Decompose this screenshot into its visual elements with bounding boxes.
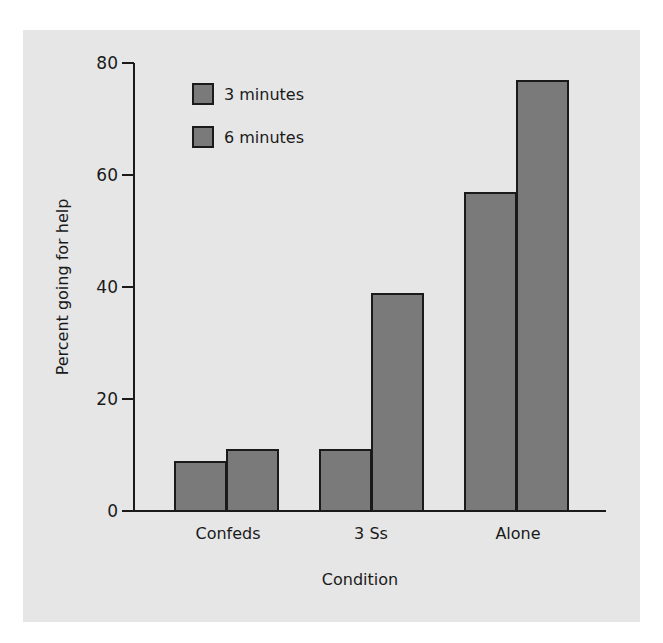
bar-alone-6-minutes <box>516 80 569 512</box>
y-tick-label: 60 <box>78 165 118 185</box>
bar-confeds-6-minutes <box>226 449 279 512</box>
x-axis-label: Condition <box>290 570 430 589</box>
y-axis-label: Percent going for help <box>53 199 72 376</box>
legend-swatch <box>192 126 214 148</box>
category-label-confeds: Confeds <box>168 524 288 543</box>
category-label-3-ss: 3 Ss <box>311 524 431 543</box>
y-tick-20 <box>122 398 134 400</box>
bar-3-ss-6-minutes <box>371 293 424 512</box>
legend-label: 3 minutes <box>224 85 304 104</box>
legend-label: 6 minutes <box>224 128 304 147</box>
y-tick-label: 20 <box>78 389 118 409</box>
legend-item-3-minutes: 3 minutes <box>192 82 304 106</box>
category-label-alone: Alone <box>458 524 578 543</box>
y-tick-40 <box>122 286 134 288</box>
bar-alone-3-minutes <box>464 192 517 512</box>
y-tick-label: 0 <box>78 501 118 521</box>
y-tick-label: 40 <box>78 277 118 297</box>
legend-swatch <box>192 83 214 105</box>
bar-confeds-3-minutes <box>174 461 227 512</box>
legend-item-6-minutes: 6 minutes <box>192 125 304 149</box>
y-tick-0 <box>122 510 134 512</box>
bar-3-ss-3-minutes <box>319 449 372 512</box>
y-tick-60 <box>122 174 134 176</box>
y-tick-label: 80 <box>78 53 118 73</box>
y-tick-80 <box>122 62 134 64</box>
